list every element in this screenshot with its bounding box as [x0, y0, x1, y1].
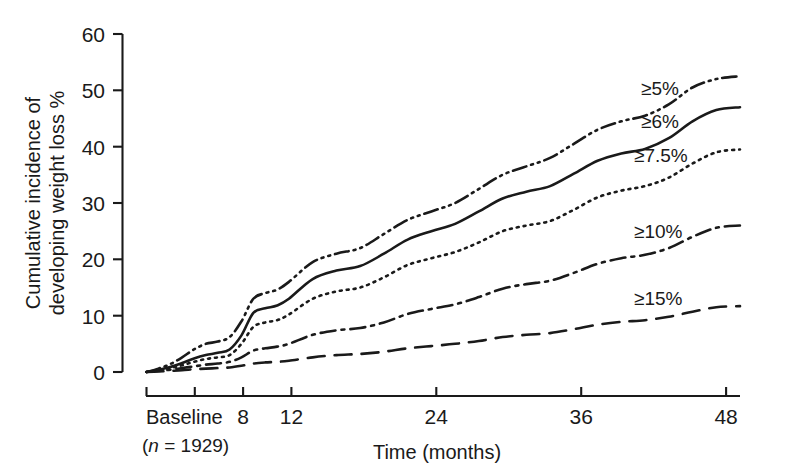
x-axis: 8 12 24 36 48 Baseline (n = 1929) Time (…	[142, 387, 740, 463]
series-labels-group: ≥5%≥6%≥7.5%≥10%≥15%	[634, 78, 688, 309]
chart-figure: Cumulative incidence of developing weigh…	[0, 0, 791, 474]
y-axis-title-line2: developing weight loss %	[46, 91, 68, 316]
x-axis-origin-label: Baseline	[146, 406, 223, 428]
x-tick-label-8: 8	[237, 405, 249, 428]
y-tick-label-60: 60	[82, 23, 105, 46]
y-tick-label-10: 10	[82, 305, 105, 328]
cumulative-incidence-line-chart: Cumulative incidence of developing weigh…	[0, 0, 791, 474]
series-line-dashed	[147, 306, 741, 372]
series-label-1: ≥6%	[641, 111, 679, 132]
y-axis-title: Cumulative incidence of developing weigh…	[22, 91, 68, 316]
x-tick-label-36: 36	[570, 405, 593, 428]
y-tick-label-50: 50	[82, 79, 105, 102]
x-tick-label-12: 12	[280, 405, 303, 428]
origin-sub-n: n	[148, 435, 159, 456]
origin-sub-rest: = 1929)	[159, 435, 229, 456]
y-tick-label-20: 20	[82, 248, 105, 271]
series-label-2: ≥7.5%	[634, 145, 688, 166]
y-tick-label-30: 30	[82, 192, 105, 215]
x-axis-tick-labels: 8 12 24 36 48	[237, 405, 738, 428]
y-axis-ticks	[113, 34, 123, 372]
x-axis-origin-sublabel: (n = 1929)	[142, 435, 229, 456]
series-label-3: ≥10%	[634, 221, 683, 242]
x-tick-label-24: 24	[425, 405, 449, 428]
y-axis-title-line1: Cumulative incidence of	[22, 96, 44, 309]
x-axis-ticks	[147, 387, 727, 396]
series-line-dotted	[147, 149, 741, 372]
series-label-4: ≥15%	[634, 288, 683, 309]
x-axis-title: Time (months)	[373, 441, 501, 463]
x-tick-label-48: 48	[714, 405, 737, 428]
series-label-0: ≥5%	[641, 78, 679, 99]
y-axis-tick-labels: 60 50 40 30 20 10 0	[82, 23, 105, 384]
y-tick-label-0: 0	[93, 361, 105, 384]
y-axis: 60 50 40 30 20 10 0	[82, 23, 123, 384]
y-tick-label-40: 40	[82, 136, 105, 159]
